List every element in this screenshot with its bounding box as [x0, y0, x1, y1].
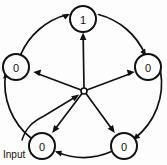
spoke-hub-to-bottomleft [56, 94, 83, 129]
state-node-right-label: 0 [145, 62, 151, 74]
input-label: Input [3, 149, 25, 160]
edge-left-to-top [21, 15, 68, 56]
spoke-hub-to-bottomright-arrowhead [108, 125, 115, 133]
state-node[interactable]: 1 [70, 6, 96, 32]
spoke-hub-to-left [39, 74, 82, 90]
edge-top-to-right [99, 15, 146, 55]
state-node[interactable]: 0 [135, 54, 161, 80]
state-node-left-label: 0 [13, 62, 19, 74]
state-node[interactable]: 0 [29, 133, 55, 159]
state-node-bottom-right-label: 0 [121, 141, 127, 153]
center-hub [81, 88, 87, 94]
spoke-hub-to-top-arrowhead [80, 33, 87, 40]
spoke-hub-to-top [83, 38, 84, 88]
state-node[interactable]: 0 [111, 133, 137, 159]
edge-bottomright-to-bottomleft [57, 152, 111, 158]
state-node[interactable]: 0 [3, 54, 29, 80]
state-node-bottom-left-label: 0 [39, 141, 45, 153]
input-connector [22, 95, 79, 141]
spoke-hub-to-right [87, 74, 130, 90]
spoke-hub-to-bottomright [86, 94, 112, 129]
state-node-top-label: 1 [80, 14, 86, 26]
edge-bottomright-to-bottomleft-arrowhead [55, 151, 62, 157]
hub-spokes [33, 33, 134, 134]
state-diagram-canvas: 1 0 0 0 0 Input [0, 0, 167, 165]
spoke-hub-to-bottomleft-arrowhead [52, 125, 59, 133]
edge-right-to-bottomright [135, 71, 162, 139]
state-diagram-figure: 1 0 0 0 0 Input [0, 0, 167, 165]
